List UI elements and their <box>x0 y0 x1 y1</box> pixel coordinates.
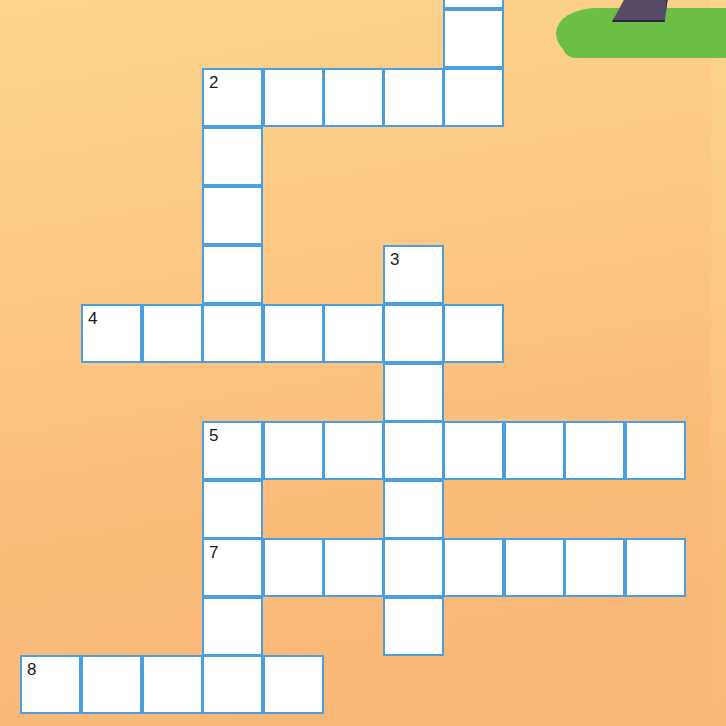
crossword-cell[interactable]: 8 <box>20 655 81 714</box>
crossword-cell[interactable] <box>202 127 263 186</box>
clue-number: 4 <box>88 310 97 327</box>
clue-number: 7 <box>209 544 218 561</box>
crossword-cell[interactable] <box>263 538 324 597</box>
crossword-cell[interactable] <box>504 421 565 480</box>
crossword-cell[interactable] <box>383 421 444 480</box>
clue-number: 3 <box>390 251 399 268</box>
crossword-cell[interactable] <box>443 304 504 363</box>
crossword-cell[interactable] <box>263 655 324 714</box>
crossword-cell[interactable] <box>383 68 444 127</box>
crossword-cell[interactable] <box>202 245 263 304</box>
crossword-cell[interactable] <box>383 597 444 656</box>
crossword-cell[interactable] <box>323 421 384 480</box>
crossword-cell[interactable] <box>202 186 263 245</box>
clue-number: 2 <box>209 74 218 91</box>
crossword-cell[interactable] <box>383 538 444 597</box>
crossword-cell[interactable] <box>81 655 142 714</box>
crossword-cell[interactable]: 2 <box>202 68 263 127</box>
crossword-cell[interactable] <box>263 421 324 480</box>
crossword-cell[interactable]: 5 <box>202 421 263 480</box>
crossword-cell[interactable] <box>443 421 504 480</box>
crossword-cell[interactable] <box>443 538 504 597</box>
clue-number: 8 <box>27 661 36 678</box>
crossword-cell[interactable] <box>564 421 625 480</box>
crossword-cell[interactable] <box>263 68 324 127</box>
crossword-cell[interactable] <box>323 538 384 597</box>
crossword-cell[interactable] <box>383 304 444 363</box>
crossword-cell[interactable] <box>202 597 263 656</box>
crossword-cell[interactable] <box>202 480 263 539</box>
crossword-cell[interactable] <box>323 68 384 127</box>
crossword-cell[interactable] <box>625 421 686 480</box>
crossword-cell[interactable]: 7 <box>202 538 263 597</box>
crossword-cell[interactable] <box>142 655 203 714</box>
crossword-cell[interactable]: 4 <box>81 304 142 363</box>
clue-number: 5 <box>209 427 218 444</box>
crossword-cell[interactable] <box>443 0 504 9</box>
crossword-cell[interactable]: 3 <box>383 245 444 304</box>
crossword-cell[interactable] <box>383 480 444 539</box>
crossword-cell[interactable] <box>263 304 324 363</box>
crossword-cell[interactable] <box>443 68 504 127</box>
crossword-cell[interactable] <box>202 655 263 714</box>
crossword-cell[interactable] <box>142 304 203 363</box>
tree-trunk-decoration <box>612 0 668 22</box>
crossword-cell[interactable] <box>202 304 263 363</box>
crossword-cell[interactable] <box>443 9 504 68</box>
grass-patch-decoration <box>562 30 622 58</box>
crossword-cell[interactable] <box>323 304 384 363</box>
crossword-cell[interactable] <box>504 538 565 597</box>
crossword-cell[interactable] <box>383 363 444 422</box>
crossword-cell[interactable] <box>564 538 625 597</box>
crossword-cell[interactable] <box>625 538 686 597</box>
